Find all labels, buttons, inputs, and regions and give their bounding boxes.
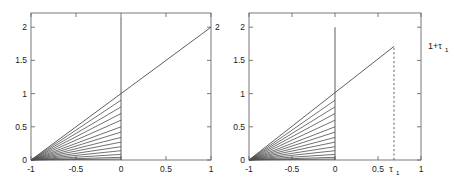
right-ytick-label-3: 1.5 [233,55,245,65]
one-plus-tau1-sub: 1 [445,47,449,53]
one-plus-tau1-base: 1+τ [428,41,442,51]
fan-ray [249,132,335,160]
right-fan-rays [249,100,335,160]
tau1-x-sub: 1 [396,170,400,176]
figure-canvas: -1 -0.5 0 0.5 1 0 0.5 1 1.5 2 2 [0,0,454,181]
tau1-x-annotation: τ 1 [389,164,400,176]
right-xtick-label-0: -1 [245,164,253,174]
right-xtick-label-4: 1 [419,164,424,174]
right-xtick-label-2: 0 [333,164,338,174]
right-ytick-label-4: 2 [240,22,245,32]
one-plus-tau1-annotation: 1+τ 1 [428,41,449,53]
right-ytick-label-1: 0.5 [233,122,245,132]
right-main-ray [249,46,394,160]
right-xtick-label-1: -0.5 [285,164,300,174]
right-plot-panel: -1 -0.5 0 0.5 1 0 0.5 1 1.5 2 τ 1 1+τ 1 [0,0,454,181]
tau1-x-base: τ [389,164,393,174]
right-ytick-label-0: 0 [240,155,245,165]
right-xtick-label-3: 0.5 [372,164,384,174]
right-ytick-label-2: 1 [240,89,245,99]
